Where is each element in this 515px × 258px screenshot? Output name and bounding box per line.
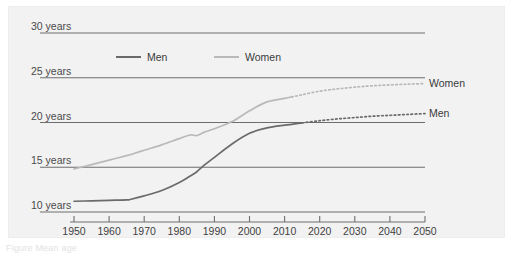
legend-swatch-women [214, 56, 239, 58]
x-tick-label-2040: 2040 [378, 225, 401, 237]
series-end-label-men: Men [429, 107, 449, 119]
figure-container: 30 years 25 years 20 years 15 years 10 y… [0, 0, 515, 258]
y-tick-label-15: 15 years [31, 154, 71, 166]
series-group [74, 84, 425, 202]
line-chart-svg [0, 0, 515, 258]
x-axis-group [70, 216, 425, 222]
legend-label-women: Women [245, 51, 281, 63]
x-tick-label-2010: 2010 [273, 225, 296, 237]
series-projection-women [292, 84, 425, 97]
x-tick-label-2050: 2050 [413, 225, 436, 237]
legend-swatch-men [116, 56, 141, 58]
x-tick-label-1950: 1950 [62, 225, 85, 237]
legend-item-men[interactable]: Men [116, 51, 167, 63]
x-tick-label-1970: 1970 [133, 225, 156, 237]
y-tick-label-20: 20 years [31, 110, 71, 122]
y-tick-label-25: 25 years [31, 65, 71, 77]
x-tick-label-1980: 1980 [168, 225, 191, 237]
x-tick-label-2020: 2020 [308, 225, 331, 237]
y-tick-label-30: 30 years [31, 20, 71, 32]
series-end-label-women: Women [429, 77, 465, 89]
series-line-women [74, 97, 292, 169]
y-tick-label-10: 10 years [31, 199, 71, 211]
x-tick-label-1990: 1990 [203, 225, 226, 237]
x-tick-label-2030: 2030 [343, 225, 366, 237]
x-tick-label-1960: 1960 [97, 225, 120, 237]
figure-caption: Figure Mean age [6, 243, 77, 253]
series-projection-men [302, 114, 425, 123]
x-tick-label-2000: 2000 [238, 225, 261, 237]
legend-label-men: Men [147, 51, 167, 63]
legend-item-women[interactable]: Women [214, 51, 281, 63]
